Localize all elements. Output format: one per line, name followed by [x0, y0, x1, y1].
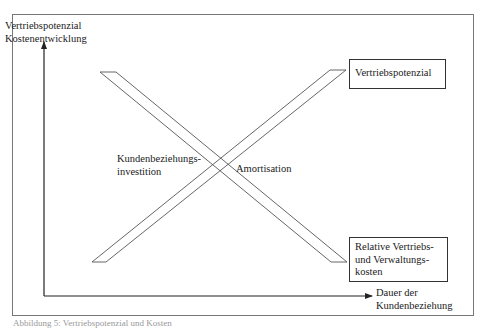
investment-label: Kundenbeziehungs- investition [117, 153, 201, 178]
y-axis-label-line1: Vertriebspotenzial [5, 20, 87, 33]
sales-potential-box-label: Vertriebspotenzial [355, 67, 431, 78]
investment-label-line1: Kundenbeziehungs- [117, 153, 201, 166]
investment-label-line2: investition [117, 166, 201, 179]
y-axis-label: Vertriebspotenzial Kostenentwicklung [5, 20, 87, 45]
relative-costs-line1: Relative Vertriebs- [355, 241, 442, 254]
relative-costs-box: Relative Vertriebs- und Verwaltungs- kos… [349, 237, 448, 282]
x-axis-label: Dauer der Kundenbeziehung [376, 287, 452, 312]
sales-potential-box: Vertriebspotenzial [349, 59, 446, 89]
relative-costs-line3: kosten [355, 266, 442, 279]
y-axis-label-line2: Kostenentwicklung [5, 33, 87, 46]
amortisation-label: Amortisation [236, 163, 291, 176]
x-axis-label-line2: Kundenbeziehung [376, 300, 452, 313]
relative-costs-line2: und Verwaltungs- [355, 254, 442, 267]
x-axis-label-line1: Dauer der [376, 287, 452, 300]
figure-caption: Abbildung 5: Vertriebspotenzial und Kost… [13, 318, 172, 328]
